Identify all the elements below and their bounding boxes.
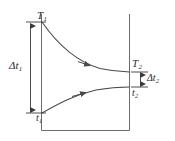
heat-exchanger-temperature-diagram: T1 Δt1 t1 T2 Δt2 t2 bbox=[0, 0, 175, 141]
label-cold-inlet-t1: t1 bbox=[36, 113, 42, 124]
label-cold-outlet-sub: 2 bbox=[135, 92, 138, 99]
label-delta-t2-sub: 2 bbox=[156, 77, 159, 84]
label-hot-inlet-T1: T1 bbox=[37, 10, 47, 23]
label-delta-t2: Δt2 bbox=[147, 73, 159, 84]
label-hot-outlet-sub: 2 bbox=[138, 63, 141, 70]
label-delta-t1: Δt1 bbox=[9, 60, 22, 73]
cold-stream-curve bbox=[42, 87, 130, 113]
cold-flow-arrow-icon bbox=[72, 93, 86, 97]
label-hot-inlet-sub: 1 bbox=[43, 15, 46, 22]
label-cold-outlet-t2: t2 bbox=[132, 88, 138, 99]
diagram-canvas bbox=[0, 0, 175, 141]
label-delta-t1-sub: 1 bbox=[19, 65, 22, 72]
label-cold-inlet-sub: 1 bbox=[39, 117, 42, 124]
label-hot-outlet-T2: T2 bbox=[132, 58, 142, 71]
label-delta-t2-symbol: Δt bbox=[147, 72, 156, 83]
label-delta-t1-symbol: Δt bbox=[9, 59, 19, 71]
